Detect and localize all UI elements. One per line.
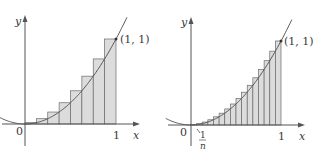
riemann-rectangle	[275, 41, 281, 125]
riemann-rectangle	[264, 61, 270, 125]
left-y-axis-label: y	[14, 15, 22, 28]
right-x-tick-label: 1	[278, 130, 285, 143]
right-y-axis-label: y	[180, 16, 188, 29]
left-point-label: (1, 1)	[120, 33, 150, 46]
riemann-rectangle	[59, 103, 70, 124]
riemann-rectangle	[71, 91, 82, 124]
left-y-axis-arrow-icon	[23, 15, 28, 22]
left-point-1-1	[115, 38, 118, 41]
left-origin-label: 0	[16, 125, 23, 138]
left-x-axis-label: x	[133, 129, 140, 142]
riemann-rectangle	[105, 39, 116, 124]
left-x-axis-arrow-icon	[133, 122, 140, 127]
left-figure-n8: (1, 1) 0 1 x y	[0, 15, 150, 146]
right-rectangles	[191, 41, 281, 125]
width-label-denominator: n	[200, 141, 206, 151]
right-point-1-1	[280, 40, 283, 43]
right-point-label: (1, 1)	[284, 35, 314, 48]
riemann-rectangle	[270, 51, 276, 125]
riemann-rectangle	[236, 98, 242, 125]
left-x-tick-label: 1	[113, 129, 120, 142]
riemann-rectangle	[259, 70, 265, 125]
right-y-axis-arrow-icon	[189, 17, 194, 24]
right-x-axis-label: x	[299, 130, 306, 143]
left-rectangles	[25, 39, 116, 124]
right-x-axis-arrow-icon	[298, 123, 305, 128]
riemann-sum-figures: (1, 1) 0 1 x y (1, 1) 0 1 x y 1 n	[0, 0, 320, 159]
right-origin-label: 0	[180, 126, 187, 139]
right-figure-n16: (1, 1) 0 1 x y 1 n	[166, 16, 314, 151]
width-label-numerator: 1	[200, 130, 206, 140]
